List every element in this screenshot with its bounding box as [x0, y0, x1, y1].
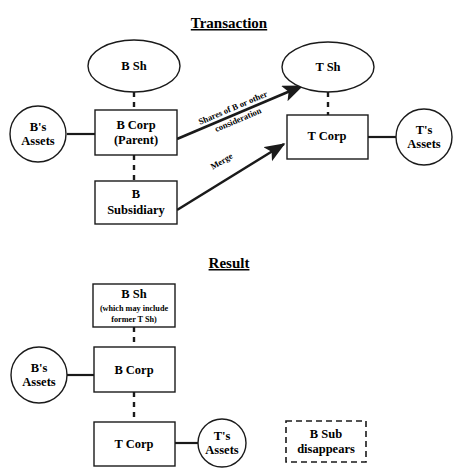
node-transaction-t-assets[interactable]: T's Assets — [396, 109, 452, 165]
node-transaction-b-shareholders[interactable]: B Sh — [88, 40, 180, 92]
b-subsidiary-label-line2: Subsidiary — [107, 203, 165, 217]
result-heading: Result — [209, 255, 250, 271]
node-transaction-t-corp[interactable]: T Corp — [287, 115, 368, 159]
node-transaction-b-corp-parent[interactable]: B Corp (Parent) — [95, 110, 177, 155]
result-b-assets-label-line2: Assets — [22, 375, 55, 389]
merger-diagram-canvas: Transaction B Sh T Sh B's Assets — [0, 0, 458, 475]
edge-label-merge: Merge — [209, 151, 235, 172]
b-shareholders-label: B Sh — [121, 59, 146, 73]
t-corp-label: T Corp — [307, 129, 346, 143]
result-t-assets-label-line1: T's — [214, 429, 231, 443]
b-corp-parent-label-line1: B Corp — [116, 118, 155, 132]
result-b-shareholders-label-line1: B Sh — [121, 287, 146, 301]
node-transaction-t-shareholders[interactable]: T Sh — [282, 42, 374, 92]
diagram-root: Transaction B Sh T Sh B's Assets — [0, 0, 458, 475]
transaction-section: Transaction B Sh T Sh B's Assets — [10, 15, 452, 224]
node-transaction-b-assets[interactable]: B's Assets — [10, 106, 66, 162]
b-assets-label-line1: B's — [30, 120, 47, 134]
t-assets-label-line1: T's — [416, 123, 433, 137]
node-result-b-shareholders[interactable]: B Sh (which may include former T Sh) — [93, 284, 175, 327]
b-corp-parent-label-line2: (Parent) — [114, 133, 158, 147]
transaction-heading: Transaction — [191, 15, 268, 31]
result-b-sub-label-line1: B Sub — [310, 427, 342, 441]
node-result-b-assets[interactable]: B's Assets — [11, 347, 67, 403]
node-result-t-corp[interactable]: T Corp — [94, 422, 175, 466]
result-b-shareholders-label-line3: former T Sh) — [111, 315, 157, 324]
node-result-b-corp[interactable]: B Corp — [94, 347, 175, 392]
result-b-assets-label-line1: B's — [31, 361, 48, 375]
result-b-shareholders-label-line2: (which may include — [100, 304, 169, 313]
t-assets-label-line2: Assets — [407, 137, 440, 151]
node-transaction-b-subsidiary[interactable]: B Subsidiary — [95, 181, 177, 224]
b-subsidiary-label-line1: B — [132, 187, 140, 201]
node-result-b-sub-disappears[interactable]: B Sub disappears — [286, 421, 366, 462]
result-t-assets-label-line2: Assets — [205, 443, 238, 457]
t-shareholders-label: T Sh — [315, 60, 340, 74]
result-b-corp-label: B Corp — [114, 363, 153, 377]
merge-label: Merge — [209, 151, 235, 172]
b-assets-label-line2: Assets — [21, 134, 54, 148]
result-t-corp-label: T Corp — [114, 437, 153, 451]
result-section: Result B Sh (which may include former T … — [11, 255, 366, 467]
result-b-sub-label-line2: disappears — [297, 442, 355, 456]
node-result-t-assets[interactable]: T's Assets — [198, 419, 246, 467]
